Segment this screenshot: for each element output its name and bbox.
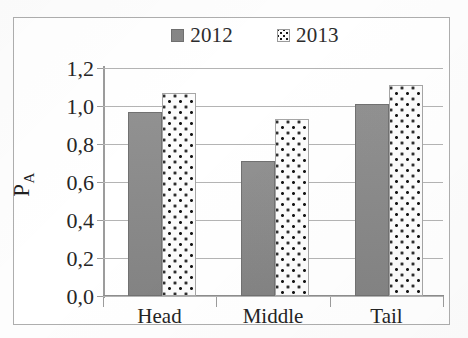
- y-tick-label: 0,6: [32, 172, 94, 194]
- figure-root: 2012 2013 PA 1,2 1,0 0,8 0,6 0,4 0,2 0,0: [0, 0, 468, 338]
- y-tick-label: 0,4: [32, 210, 94, 232]
- bar-tail-2013: [389, 85, 423, 296]
- bar-middle-2012: [241, 161, 275, 296]
- gridline: [103, 296, 443, 297]
- legend-item-2013: 2013: [277, 25, 339, 46]
- x-tick-label-tail: Tail: [330, 305, 443, 328]
- x-tick-label-middle: Middle: [216, 305, 330, 328]
- y-tick-label: 0,8: [32, 134, 94, 156]
- y-tick-label: 1,0: [32, 96, 94, 118]
- gridline: [103, 68, 443, 69]
- x-tick-mark: [443, 296, 444, 307]
- y-tick-label: 1,2: [32, 58, 94, 80]
- legend-label-2013: 2013: [296, 25, 339, 46]
- y-tick-label: 0,0: [32, 286, 94, 308]
- legend-swatch-dotted-pattern-icon: [277, 29, 290, 42]
- bar-middle-2013: [275, 119, 309, 296]
- bar-head-2013: [162, 93, 196, 296]
- x-tick-label-head: Head: [103, 305, 216, 328]
- bar-head-2012: [128, 112, 162, 296]
- bar-tail-2012: [355, 104, 389, 296]
- chart-legend: 2012 2013: [150, 22, 360, 48]
- legend-swatch-solid-gray-icon: [171, 29, 184, 42]
- y-tick-label: 0,2: [32, 248, 94, 270]
- plot-area: [103, 68, 443, 296]
- legend-label-2012: 2012: [190, 25, 233, 46]
- legend-item-2012: 2012: [171, 25, 233, 46]
- y-axis-tick-labels: 1,2 1,0 0,8 0,6 0,4 0,2 0,0: [24, 0, 94, 338]
